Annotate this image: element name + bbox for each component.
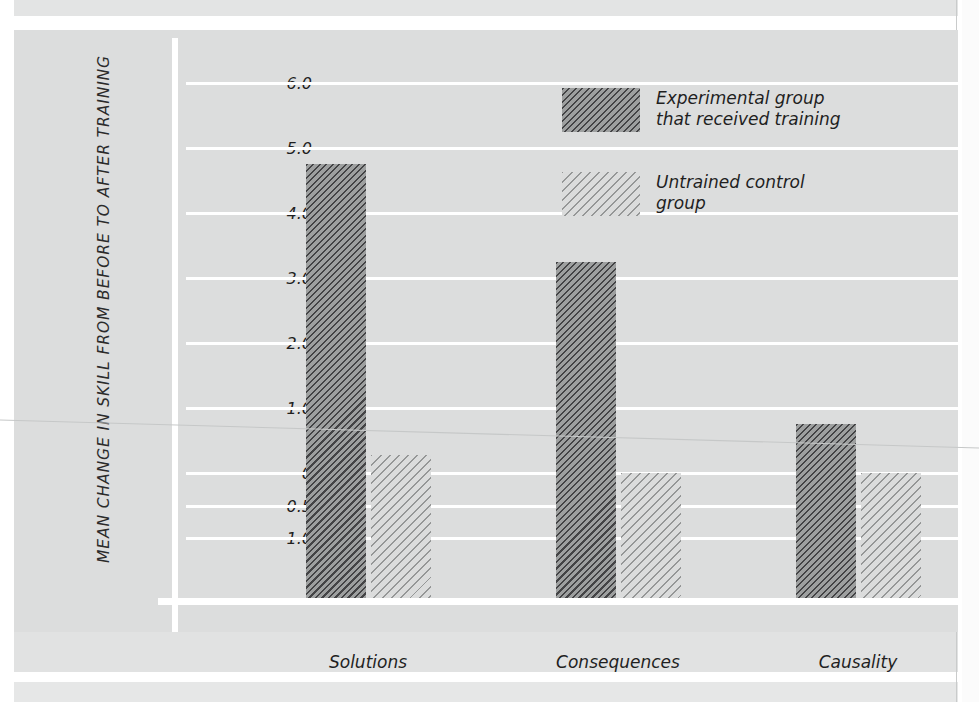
plot-area: 6.05.04.03.02.01.00−0.5−1.0 SolutionsCon… [172,30,958,632]
x-axis-tick-labels: SolutionsConsequencesCausality [186,630,958,680]
legend-entry-control: Untrained control group [562,172,805,216]
bar-solutions-experimental [306,164,366,598]
x-axis-origin-tick [172,598,178,632]
y-axis-line [172,38,178,630]
dark-hatch-swatch-icon [562,88,640,132]
legend-entry-experimental: Experimental group that received trainin… [562,88,840,132]
bar-consequences-control [621,473,681,598]
bar-consequences-experimental [556,262,616,598]
x-tick-label-solutions: Solutions [329,652,407,672]
x-tick-label-consequences: Consequences [556,652,680,672]
page-band-top [14,0,958,16]
light-hatch-swatch-icon [562,172,640,216]
page-band-bottom-lower [14,682,958,702]
x-tick-label-causality: Causality [819,652,898,672]
y-axis-title: MEAN CHANGE IN SKILL FROM BEFORE TO AFTE… [95,49,113,569]
bar-solutions-control [371,455,431,598]
gridline [186,147,958,150]
bar-chart-figure: MEAN CHANGE IN SKILL FROM BEFORE TO AFTE… [14,30,958,632]
bar-causality-experimental [796,424,856,598]
legend-label-experimental: Experimental group that received trainin… [656,88,840,130]
gridline [186,82,958,85]
bar-causality-control [861,473,921,598]
page-right-margin [962,0,979,702]
legend-label-control: Untrained control group [656,172,805,214]
